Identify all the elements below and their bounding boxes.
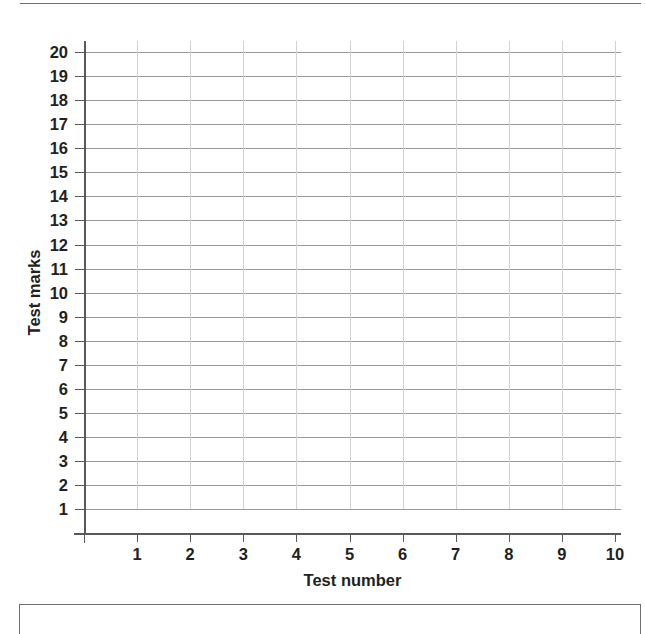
x-axis-tick	[615, 533, 616, 542]
gridline-horizontal	[84, 245, 621, 246]
x-axis-tick-label: 7	[436, 546, 476, 563]
gridline-vertical	[137, 41, 138, 509]
y-axis-tick-label: 20	[28, 44, 68, 61]
y-axis-tick	[75, 269, 84, 270]
x-axis-tick	[403, 533, 404, 542]
y-axis-tick-label: 18	[28, 92, 68, 109]
y-axis-tick	[75, 461, 84, 462]
gridline-horizontal	[84, 124, 621, 125]
gridline-horizontal	[84, 52, 621, 53]
gridline-horizontal	[84, 220, 621, 221]
y-axis-tick	[75, 52, 84, 53]
y-axis-tick-label: 4	[28, 429, 68, 446]
y-axis-tick	[75, 220, 84, 221]
y-axis-tick-label: 15	[28, 164, 68, 181]
x-axis-tick	[137, 533, 138, 542]
gridline-horizontal	[84, 461, 621, 462]
y-axis-title: Test marks	[25, 233, 44, 353]
y-axis-tick	[75, 124, 84, 125]
x-axis-tick-label: 6	[383, 546, 423, 563]
y-axis-tick	[75, 76, 84, 77]
gridline-horizontal	[84, 485, 621, 486]
gridline-vertical	[562, 41, 563, 509]
x-axis-tick-label: 8	[489, 546, 529, 563]
y-axis-tick-label: 19	[28, 68, 68, 85]
y-axis-tick	[75, 148, 84, 149]
y-axis-line	[84, 41, 86, 533]
x-axis-tick-label: 4	[276, 546, 316, 563]
x-axis-tick	[509, 533, 510, 542]
x-axis-tick-label: 5	[330, 546, 370, 563]
x-axis-tick-label: 2	[170, 546, 210, 563]
gridline-vertical	[296, 41, 297, 509]
x-axis-tick	[456, 533, 457, 542]
y-axis-tick-label: 5	[28, 405, 68, 422]
gridline-vertical	[615, 41, 616, 509]
gridline-vertical	[350, 41, 351, 509]
gridline-horizontal	[84, 413, 621, 414]
gridline-horizontal	[84, 196, 621, 197]
y-axis-tick-label: 3	[28, 453, 68, 470]
y-axis-tick-label: 6	[28, 381, 68, 398]
y-axis-tick	[75, 509, 84, 510]
y-axis-tick-label: 13	[28, 212, 68, 229]
y-axis-tick-label: 1	[28, 501, 68, 518]
y-axis-tick	[75, 341, 84, 342]
x-axis-tick	[296, 533, 297, 542]
y-axis-tick	[75, 389, 84, 390]
gridline-horizontal	[84, 293, 621, 294]
x-axis-tick-label: 1	[117, 546, 157, 563]
y-axis-tick	[75, 413, 84, 414]
y-axis-tick	[75, 485, 84, 486]
x-axis-tick	[190, 533, 191, 542]
y-axis-tick	[75, 365, 84, 366]
x-axis-tick-label: 9	[542, 546, 582, 563]
gridline-horizontal	[84, 437, 621, 438]
gridline-vertical	[456, 41, 457, 509]
x-axis-tick-label: 10	[595, 546, 635, 563]
gridline-horizontal	[84, 269, 621, 270]
x-axis-tick	[243, 533, 244, 542]
y-axis-tick	[75, 293, 84, 294]
x-axis-line	[74, 533, 621, 535]
gridline-horizontal	[84, 76, 621, 77]
gridline-vertical	[403, 41, 404, 509]
plot-area	[84, 51, 621, 509]
x-axis-title: Test number	[84, 571, 621, 590]
y-axis-tick-label: 7	[28, 357, 68, 374]
gridline-horizontal	[84, 365, 621, 366]
y-axis-tick-label: 16	[28, 140, 68, 157]
gridline-vertical	[190, 41, 191, 509]
gridline-horizontal	[84, 172, 621, 173]
x-axis-tick	[350, 533, 351, 542]
y-axis-tick	[75, 317, 84, 318]
x-axis-tick	[562, 533, 563, 542]
y-axis-tick	[75, 437, 84, 438]
gridline-horizontal	[84, 509, 621, 510]
gridline-horizontal	[84, 341, 621, 342]
x-axis-tick-label: 3	[223, 546, 263, 563]
gridline-horizontal	[84, 100, 621, 101]
y-axis-tick	[75, 196, 84, 197]
y-axis-tick	[75, 245, 84, 246]
origin-tick	[84, 523, 85, 543]
gridline-horizontal	[84, 389, 621, 390]
gridline-vertical	[243, 41, 244, 509]
y-axis-tick-label: 2	[28, 477, 68, 494]
gridline-horizontal	[84, 317, 621, 318]
y-axis-tick-label: 17	[28, 116, 68, 133]
gridline-vertical	[509, 41, 510, 509]
gridline-horizontal	[84, 148, 621, 149]
y-axis-tick	[75, 172, 84, 173]
y-axis-tick	[75, 100, 84, 101]
y-axis-tick-label: 14	[28, 188, 68, 205]
